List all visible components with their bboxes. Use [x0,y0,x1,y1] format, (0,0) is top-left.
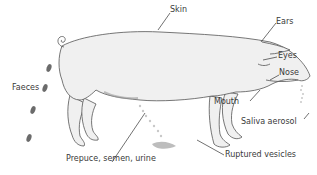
label-vesicles: Ruptured vesicles [225,151,296,159]
label-mouth: Mouth [214,98,239,106]
label-skin: Skin [170,6,187,14]
label-faeces: Faeces [12,84,39,92]
pig-body [59,32,310,148]
urine-puddle-icon [152,142,176,149]
label-nose: Nose [279,69,299,77]
label-eyes: Eyes [278,52,297,60]
label-saliva: Saliva aerosol [241,118,297,126]
label-prepuce: Prepuce, semen, urine [66,155,156,163]
urine-spray-icon [139,105,162,137]
saliva-aerosol-icon [300,85,304,103]
pig-diagram [0,0,317,175]
label-ears: Ears [276,18,293,26]
faeces-icon [25,63,52,142]
